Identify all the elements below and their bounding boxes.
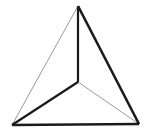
tetrahedron-svg [0, 0, 150, 132]
edge-bottom-left-to-bottom-right [12, 124, 139, 125]
figure-background [0, 0, 150, 132]
tetrahedron-figure [0, 0, 150, 132]
